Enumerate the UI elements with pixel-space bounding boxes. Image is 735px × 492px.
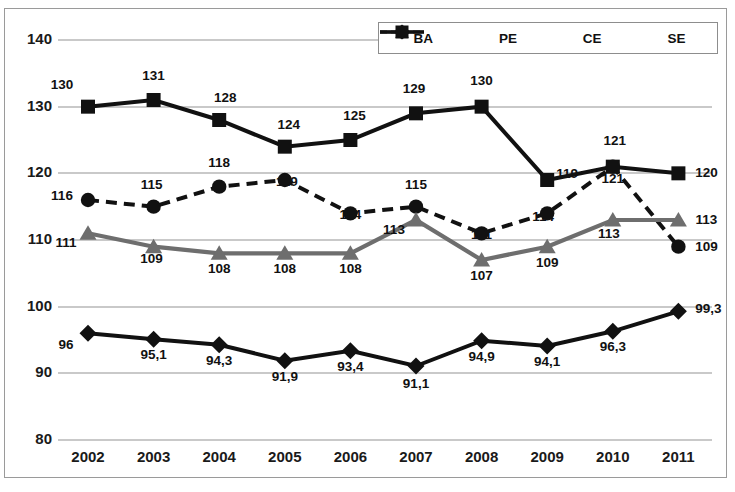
data-point-ba [146, 199, 160, 213]
data-label-pe-2005: 108 [261, 261, 309, 276]
data-point-se [212, 113, 226, 127]
data-label-ba-2002: 116 [38, 188, 86, 203]
legend-item-pe: PE [496, 31, 517, 46]
data-label-ce-2003: 95,1 [130, 347, 178, 362]
data-label-se-2006: 125 [330, 108, 378, 123]
line-chart: 8090100110120130140 20022003200420052006… [0, 0, 735, 492]
data-point-se [278, 140, 292, 154]
data-label-pe-2010: 113 [585, 226, 633, 241]
data-label-pe-2008: 107 [458, 268, 506, 283]
chart-legend: BA PE CE SE [378, 22, 718, 54]
legend-item-ce: CE [580, 31, 602, 46]
data-point-ce [276, 352, 293, 369]
data-label-ce-2010: 96,3 [589, 339, 637, 354]
data-label-ba-2004: 118 [195, 155, 243, 170]
data-point-ba [409, 199, 423, 213]
data-point-ce [604, 323, 621, 340]
data-label-ba-2003: 115 [128, 177, 176, 192]
data-point-ce [473, 332, 490, 349]
data-label-ba-2010: 121 [589, 171, 637, 186]
data-point-ce [211, 336, 228, 353]
data-label-ce-2007: 91,1 [392, 376, 440, 391]
data-label-ce-2002: 96 [42, 337, 90, 352]
data-point-se [343, 133, 357, 147]
data-label-ce-2011: 99,3 [684, 301, 732, 316]
data-label-ba-2009: 114 [519, 209, 567, 224]
data-label-se-2005: 124 [265, 117, 313, 132]
data-label-se-2002: 130 [38, 77, 86, 92]
data-label-pe-2006: 108 [326, 261, 374, 276]
data-label-se-2009: 119 [543, 166, 591, 181]
legend-label-se: SE [668, 31, 686, 46]
data-point-ba [212, 179, 226, 193]
data-point-se [81, 100, 95, 114]
legend-item-se: SE [665, 31, 686, 46]
legend-label-pe: PE [499, 31, 517, 46]
data-label-pe-2002: 111 [42, 235, 90, 250]
data-point-se [147, 93, 161, 107]
legend-label-ce: CE [583, 31, 602, 46]
data-label-ce-2009: 94,1 [523, 354, 571, 369]
data-label-se-2008: 130 [458, 73, 506, 88]
data-label-pe-2009: 109 [523, 255, 571, 270]
data-label-pe-2003: 109 [128, 251, 176, 266]
legend-swatch-se [379, 23, 425, 41]
data-label-ba-2006: 114 [326, 207, 374, 222]
data-point-ce [145, 331, 162, 348]
data-label-ce-2008: 94,9 [458, 349, 506, 364]
data-label-se-2011: 120 [682, 165, 730, 180]
data-label-se-2003: 131 [130, 68, 178, 83]
data-point-ce [342, 342, 359, 359]
data-label-ba-2011: 109 [682, 239, 730, 254]
data-label-pe-2007: 113 [370, 222, 418, 237]
data-label-ba-2005: 119 [263, 174, 311, 189]
data-label-se-2010: 121 [591, 133, 639, 148]
data-label-ba-2007: 115 [392, 177, 440, 192]
data-point-se [409, 106, 423, 120]
data-label-se-2007: 129 [390, 81, 438, 96]
data-point-ce [539, 338, 556, 355]
data-label-ba-2008: 111 [458, 227, 506, 242]
data-label-pe-2011: 113 [682, 212, 730, 227]
data-label-ce-2004: 94,3 [195, 353, 243, 368]
data-label-pe-2004: 108 [195, 261, 243, 276]
data-point-ce [408, 358, 425, 375]
data-label-se-2004: 128 [201, 90, 249, 105]
data-point-se [475, 100, 489, 114]
data-label-ce-2006: 93,4 [326, 359, 374, 374]
series-lines [0, 0, 735, 492]
data-label-ce-2005: 91,9 [261, 369, 309, 384]
